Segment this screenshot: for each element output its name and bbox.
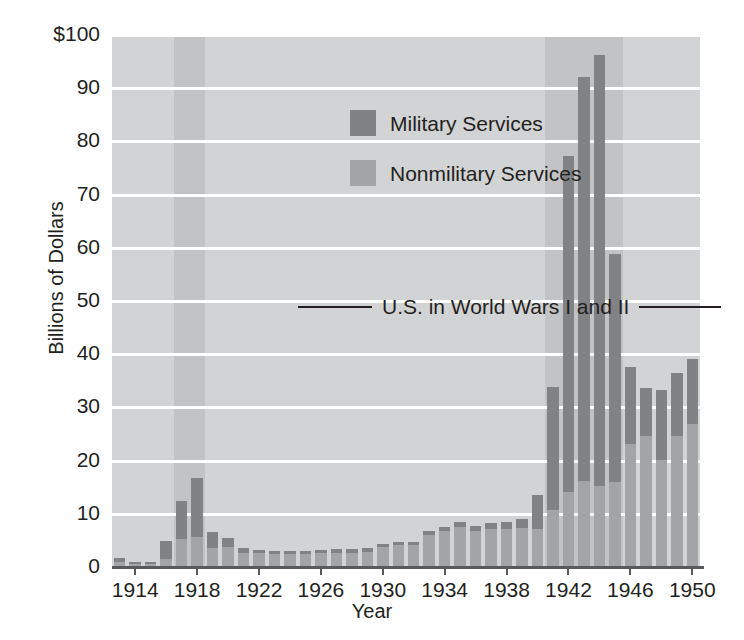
- bar: [393, 542, 404, 566]
- bar-segment-nonmilitary: [656, 460, 667, 566]
- bar-segment-military: [253, 550, 264, 554]
- bar-segment-military: [532, 495, 543, 529]
- bar: [191, 478, 202, 566]
- bar-segment-nonmilitary: [516, 528, 527, 566]
- bar: [331, 549, 342, 566]
- bar: [563, 156, 574, 566]
- bar-segment-military: [439, 527, 450, 532]
- bar-segment-nonmilitary: [470, 531, 481, 566]
- bar-segment-military: [656, 390, 667, 459]
- bar-segment-nonmilitary: [207, 548, 218, 566]
- bar-segment-nonmilitary: [532, 529, 543, 566]
- bar-segment-military: [563, 156, 574, 491]
- x-tick: [196, 566, 198, 575]
- bar-segment-military: [191, 478, 202, 537]
- bar: [300, 551, 311, 566]
- legend-item-nonmilitary: Nonmilitary Services: [350, 156, 581, 190]
- bar-segment-military: [408, 542, 419, 545]
- plot-area: Military Services Nonmilitary Services U…: [112, 34, 700, 566]
- bar-segment-nonmilitary: [222, 547, 233, 566]
- bar-segment-military: [640, 388, 651, 436]
- bar-segment-nonmilitary: [671, 436, 682, 566]
- gridline: [112, 34, 700, 37]
- bar-segment-military: [176, 501, 187, 539]
- bar-segment-nonmilitary: [408, 545, 419, 566]
- bar-segment-military: [393, 542, 404, 546]
- bar-segment-nonmilitary: [687, 424, 698, 566]
- bar: [485, 523, 496, 566]
- legend-item-military: Military Services: [350, 106, 581, 140]
- bar-segment-military: [222, 538, 233, 547]
- bar: [532, 495, 543, 566]
- bar: [439, 527, 450, 566]
- bar-segment-nonmilitary: [439, 531, 450, 566]
- bar-segment-nonmilitary: [160, 559, 171, 566]
- y-tick-label: 50: [4, 289, 100, 310]
- bar-segment-nonmilitary: [423, 535, 434, 566]
- bar: [160, 541, 171, 566]
- bar-segment-nonmilitary: [269, 554, 280, 566]
- bar-segment-nonmilitary: [300, 554, 311, 566]
- bar-segment-military: [346, 549, 357, 553]
- bar-segment-military: [284, 551, 295, 554]
- bar: [377, 544, 388, 566]
- bar-segment-military: [331, 549, 342, 553]
- x-axis-title: Year: [0, 600, 744, 623]
- bar: [222, 538, 233, 566]
- bar-segment-nonmilitary: [563, 492, 574, 566]
- chart-figure: Billions of Dollars 0102030405060708090$…: [0, 0, 744, 640]
- bar-segment-military: [594, 55, 605, 486]
- bar: [408, 542, 419, 566]
- y-tick-label: 40: [4, 342, 100, 363]
- war-annotation: U.S. in World Wars I and II: [298, 296, 721, 317]
- y-tick-label: $100: [4, 23, 100, 44]
- gridline: [112, 87, 700, 90]
- y-tick-label: 0: [4, 555, 100, 576]
- bar-segment-nonmilitary: [377, 547, 388, 566]
- bar-segment-military: [315, 550, 326, 553]
- bar-segment-military: [454, 522, 465, 527]
- bar-segment-military: [129, 562, 140, 564]
- annotation-label: U.S. in World Wars I and II: [372, 296, 639, 317]
- bar: [687, 359, 698, 566]
- annotation-leader-right-icon: [639, 306, 721, 308]
- bar: [114, 558, 125, 566]
- bar-segment-nonmilitary: [191, 537, 202, 566]
- bar-segment-military: [145, 562, 156, 564]
- bar-segment-nonmilitary: [253, 553, 264, 566]
- bar-segment-nonmilitary: [331, 553, 342, 566]
- bar-segment-nonmilitary: [362, 552, 373, 566]
- bar: [671, 373, 682, 566]
- bar-segment-nonmilitary: [547, 510, 558, 566]
- bar-segment-nonmilitary: [393, 545, 404, 566]
- bar-segment-nonmilitary: [640, 436, 651, 566]
- bar-segment-military: [547, 387, 558, 509]
- bar-segment-nonmilitary: [578, 481, 589, 566]
- bar-segment-military: [238, 548, 249, 553]
- x-tick: [629, 566, 631, 575]
- bar-segment-military: [300, 551, 311, 554]
- bar-segment-nonmilitary: [238, 553, 249, 566]
- x-axis-line: [112, 566, 704, 569]
- bar-segment-nonmilitary: [625, 444, 636, 566]
- bar: [470, 526, 481, 566]
- legend-label-nonmilitary: Nonmilitary Services: [390, 163, 581, 184]
- bar-segment-military: [671, 373, 682, 436]
- bar-segment-military: [485, 523, 496, 528]
- bar-segment-military: [470, 526, 481, 531]
- bar-segment-military: [423, 531, 434, 535]
- bar: [269, 551, 280, 566]
- legend-swatch-military-icon: [350, 110, 376, 136]
- bar: [362, 548, 373, 566]
- bar: [501, 522, 512, 566]
- bar-segment-military: [625, 367, 636, 444]
- y-tick-label: 20: [4, 449, 100, 470]
- x-tick: [567, 566, 569, 575]
- y-tick-label: 30: [4, 395, 100, 416]
- y-tick-label: 70: [4, 183, 100, 204]
- bar-segment-nonmilitary: [454, 527, 465, 566]
- x-tick: [691, 566, 693, 575]
- bar: [625, 367, 636, 567]
- bar: [423, 531, 434, 566]
- bar-segment-nonmilitary: [609, 482, 620, 566]
